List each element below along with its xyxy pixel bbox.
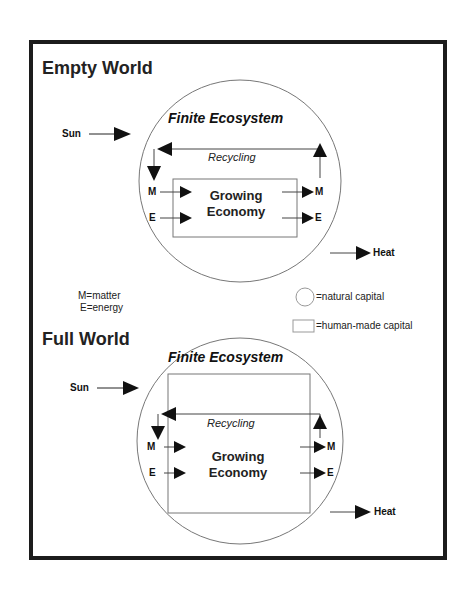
diagram-graphics bbox=[0, 0, 469, 593]
empty-world-input-e-label: E bbox=[149, 212, 156, 223]
natural-capital-legend-circle-icon bbox=[296, 288, 314, 306]
full-world-sun-label: Sun bbox=[70, 382, 89, 393]
full-world-ecosystem-label: Finite Ecosystem bbox=[168, 349, 283, 365]
economy-label-line1: Growing bbox=[200, 188, 272, 204]
empty-world-ecosystem-label: Finite Ecosystem bbox=[168, 110, 283, 126]
full-world-input-arrows-icon bbox=[164, 441, 186, 479]
full-world-output-m-label: M bbox=[327, 441, 335, 452]
empty-world-economy-label: Growing Economy bbox=[200, 188, 272, 220]
empty-world-sun-label: Sun bbox=[62, 128, 81, 139]
empty-world-heat-arrow-icon bbox=[330, 246, 371, 260]
full-world-recycling-label: Recycling bbox=[207, 417, 255, 429]
empty-world-output-e-label: E bbox=[315, 212, 322, 223]
legend-natural-capital: =natural capital bbox=[316, 291, 384, 302]
empty-world-output-m-label: M bbox=[315, 186, 323, 197]
full-world-input-e-label: E bbox=[149, 467, 156, 478]
empty-world-recycling-label: Recycling bbox=[208, 151, 256, 163]
empty-world-heat-label: Heat bbox=[373, 247, 395, 258]
economy-label-line2: Economy bbox=[200, 204, 272, 220]
empty-world-title: Empty World bbox=[42, 58, 153, 79]
key-energy: E=energy bbox=[80, 302, 123, 313]
full-world-title: Full World bbox=[42, 329, 130, 350]
full-world-heat-arrow-icon bbox=[330, 505, 371, 519]
legend-human-made-capital: =human-made capital bbox=[316, 320, 412, 331]
full-world-economy-label: Growing Economy bbox=[200, 449, 276, 481]
economy-label-line1: Growing bbox=[200, 449, 276, 465]
empty-world-input-arrows-icon bbox=[160, 186, 192, 224]
economy-label-line2: Economy bbox=[200, 465, 276, 481]
empty-world-output-arrows-icon bbox=[282, 186, 314, 224]
full-world-sun-arrow-icon bbox=[97, 381, 139, 395]
full-world-output-arrows-icon bbox=[300, 441, 326, 479]
full-world-input-m-label: M bbox=[147, 441, 155, 452]
empty-world-sun-arrow-icon bbox=[89, 127, 131, 141]
full-world-output-e-label: E bbox=[327, 467, 334, 478]
full-world-economy-rect bbox=[168, 374, 310, 513]
human-made-capital-legend-rect-icon bbox=[293, 320, 314, 332]
key-matter: M=matter bbox=[78, 290, 121, 301]
empty-world-input-m-label: M bbox=[148, 186, 156, 197]
full-world-heat-label: Heat bbox=[374, 506, 396, 517]
